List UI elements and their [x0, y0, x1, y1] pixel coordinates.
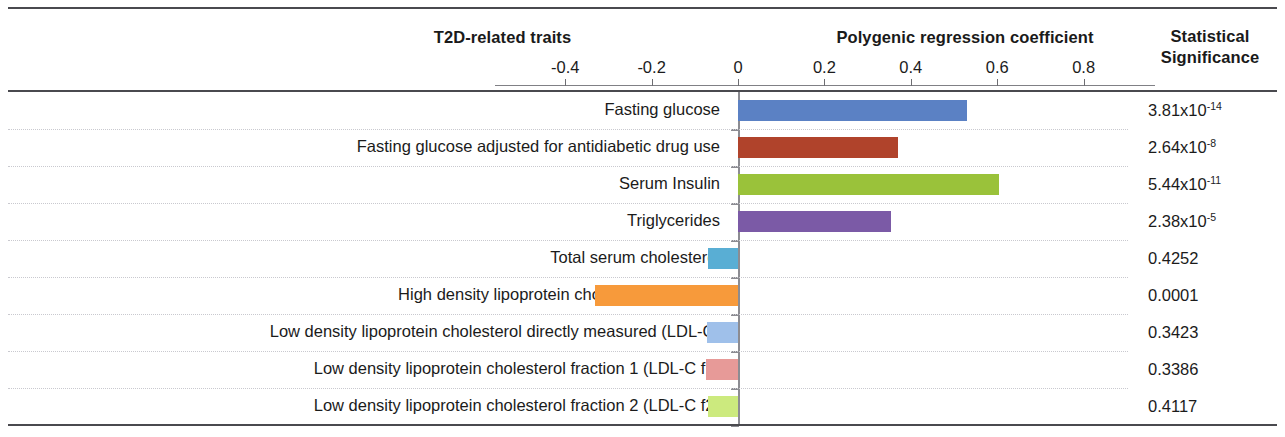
- chart-row: Low density lipoprotein cholesterol frac…: [0, 388, 1285, 426]
- chart-row: Fasting glucose adjusted for antidiabeti…: [0, 129, 1285, 167]
- significance-value: 2.38x10-5: [1148, 212, 1283, 231]
- coefficient-bar: [708, 248, 738, 269]
- significance-value: 0.3423: [1148, 323, 1283, 342]
- significance-value: 0.4117: [1148, 397, 1283, 416]
- trait-label: Serum Insulin: [20, 174, 720, 193]
- chart-row: Serum Insulin5.44x10-11: [0, 166, 1285, 204]
- coefficient-bar: [707, 322, 738, 343]
- chart-row: High density lipoprotein cholesterol (HD…: [0, 277, 1285, 315]
- trait-label: Fasting glucose adjusted for antidiabeti…: [20, 137, 720, 156]
- x-axis-tick-label: 0.2: [789, 58, 859, 77]
- significance-exponent: -11: [1207, 174, 1221, 186]
- x-axis-tick-labels: -0.4-0.200.20.40.60.8: [0, 58, 1285, 82]
- significance-value: 5.44x10-11: [1148, 175, 1283, 194]
- coefficient-bar: [706, 359, 738, 380]
- x-axis-tick-mark: [652, 79, 653, 86]
- polygenic-regression-figure: T2D-related traits Polygenic regression …: [0, 0, 1285, 437]
- coefficient-bar: [738, 100, 967, 121]
- chart-row: Fasting glucose3.81x10-14: [0, 92, 1285, 130]
- coefficient-bar: [738, 211, 891, 232]
- x-axis-tick-mark: [824, 79, 825, 86]
- trait-label: Low density lipoprotein cholesterol frac…: [20, 359, 720, 378]
- x-axis-tick-mark: [565, 79, 566, 86]
- coefficient-bar: [708, 396, 738, 417]
- x-axis-tick-label: 0: [703, 58, 773, 77]
- coefficient-bar: [738, 174, 999, 195]
- chart-plot-area: Fasting glucose3.81x10-14Fasting glucose…: [0, 92, 1285, 424]
- trait-label: Low density lipoprotein cholesterol dire…: [20, 322, 720, 341]
- column-header-significance-line1: Statistical: [1140, 26, 1280, 47]
- chart-row: Low density lipoprotein cholesterol dire…: [0, 314, 1285, 352]
- trait-label: Total serum cholesterol: [20, 248, 720, 267]
- x-axis-tick-label: 0.6: [962, 58, 1032, 77]
- coefficient-bar: [738, 137, 898, 158]
- significance-value: 0.0001: [1148, 286, 1283, 305]
- x-axis-tick-label: 0.8: [1049, 58, 1119, 77]
- trait-label: Fasting glucose: [20, 100, 720, 119]
- x-axis-tick-mark: [997, 79, 998, 86]
- significance-exponent: -5: [1207, 211, 1216, 223]
- table-bottom-border: [8, 424, 1277, 426]
- coefficient-bar: [595, 285, 738, 306]
- x-axis-tick-mark: [1084, 79, 1085, 86]
- significance-value: 0.4252: [1148, 249, 1283, 268]
- table-top-border: [8, 7, 1277, 9]
- significance-value: 3.81x10-14: [1148, 101, 1283, 120]
- trait-label: Triglycerides: [20, 211, 720, 230]
- trait-label: Low density lipoprotein cholesterol frac…: [20, 396, 720, 415]
- significance-exponent: -14: [1207, 100, 1222, 112]
- chart-row: Low density lipoprotein cholesterol frac…: [0, 351, 1285, 389]
- x-axis-tick-label: -0.2: [617, 58, 687, 77]
- x-axis-tick-mark: [738, 79, 739, 86]
- significance-exponent: -8: [1207, 137, 1216, 149]
- chart-row: Triglycerides2.38x10-5: [0, 203, 1285, 241]
- x-axis-tick-mark: [911, 79, 912, 86]
- significance-value: 2.64x10-8: [1148, 138, 1283, 157]
- x-axis-tick-label: 0.4: [876, 58, 946, 77]
- x-axis-tick-label: -0.4: [530, 58, 600, 77]
- significance-value: 0.3386: [1148, 360, 1283, 379]
- chart-row: Total serum cholesterol0.4252: [0, 240, 1285, 278]
